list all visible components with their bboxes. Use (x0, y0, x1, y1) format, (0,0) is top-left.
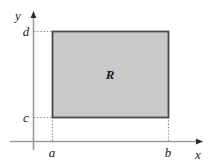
y-axis-arrowhead (31, 11, 37, 18)
y-tick-label-c: c (23, 110, 29, 125)
x-axis-arrowhead (196, 139, 203, 145)
y-tick-label-d: d (23, 24, 30, 39)
x-tick-label-a: a (49, 145, 56, 160)
rectangle-region-diagram: y x d c a b R (0, 0, 221, 163)
x-tick-label-b: b (165, 145, 172, 160)
x-axis-label: x (194, 147, 201, 162)
figure-canvas: y x d c a b R (0, 0, 221, 163)
y-axis-label: y (13, 8, 21, 23)
region-label-R: R (105, 67, 115, 82)
